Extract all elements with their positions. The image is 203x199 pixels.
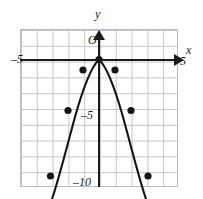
graph-figure: y x O –5 5 –5 –10 [0, 0, 203, 199]
x-tick-label-positive-5: 5 [180, 55, 186, 67]
x-axis-label: x [186, 44, 191, 56]
x-tick-label-negative-5: –5 [11, 53, 23, 65]
y-tick-label-negative-10: –10 [73, 176, 91, 188]
y-axis-label: y [95, 8, 100, 20]
origin-label: O [88, 34, 97, 46]
y-tick-label-negative-5: –5 [81, 109, 93, 121]
y-axis-line [98, 36, 100, 187]
